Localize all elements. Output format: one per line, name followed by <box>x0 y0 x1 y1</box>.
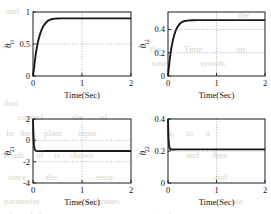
y-axis-label: θ^22 <box>136 146 150 155</box>
y-axis-label-subscript: 11 <box>9 39 15 45</box>
svg-text:θ^11: θ^11 <box>1 39 15 48</box>
parameter-estimation-figure: 01200.51Time(Sec)θ^1101200.20.4Time(Sec)… <box>0 0 271 214</box>
y-axis-label: θ^21 <box>1 146 15 155</box>
y-tick-label: 0 <box>161 71 165 81</box>
plot-panel-theta12: 01200.20.4Time(Sec)θ^12 <box>136 12 268 100</box>
svg-text:θ^12: θ^12 <box>136 39 150 48</box>
y-tick-label: 2 <box>26 114 30 124</box>
y-tick-label: -2 <box>23 157 30 167</box>
x-tick-label: 2 <box>263 185 267 195</box>
y-axis-label: θ^12 <box>136 39 150 48</box>
y-axis-label-subscript: 22 <box>144 146 150 152</box>
y-tick-label: 0 <box>26 71 30 81</box>
x-tick-label: 0 <box>166 185 170 195</box>
y-tick-label: 0.2 <box>154 146 165 156</box>
data-curve-theta22_estimate <box>168 119 265 150</box>
y-tick-label: 0.4 <box>154 114 165 124</box>
x-tick-label: 2 <box>129 185 133 195</box>
x-tick-label: 0 <box>166 78 170 88</box>
y-tick-label: 0.2 <box>154 48 165 58</box>
plot-panel-theta11: 01200.51Time(Sec)θ^11 <box>1 7 134 100</box>
y-tick-label: 0 <box>26 135 30 145</box>
y-tick-label: 1 <box>26 7 30 17</box>
x-axis-title: Time(Sec) <box>64 90 100 100</box>
x-tick-label: 1 <box>214 185 218 195</box>
x-tick-label: 0 <box>31 185 35 195</box>
x-tick-label: 1 <box>214 78 218 88</box>
y-axis-label-subscript: 12 <box>144 39 150 45</box>
plot-panel-theta22: 01200.20.4Time(Sec)θ^22 <box>136 114 268 207</box>
x-tick-label: 2 <box>129 78 133 88</box>
y-tick-label: 0.4 <box>154 24 165 34</box>
y-tick-label: 0.5 <box>19 39 30 49</box>
x-axis-title: Time(Sec) <box>199 90 235 100</box>
x-tick-label: 2 <box>263 78 267 88</box>
x-tick-label: 0 <box>31 78 35 88</box>
y-axis-label: θ^11 <box>1 39 15 48</box>
x-tick-label: 1 <box>80 78 84 88</box>
x-axis-title: Time(Sec) <box>199 197 235 207</box>
y-axis-label-subscript: 21 <box>9 146 15 152</box>
y-tick-label: -4 <box>23 178 31 188</box>
svg-text:θ^21: θ^21 <box>1 146 15 155</box>
svg-text:θ^22: θ^22 <box>136 146 150 155</box>
x-axis-title: Time(Sec) <box>64 197 100 207</box>
plot-panel-theta21: 012-4-202Time(Sec)θ^21 <box>1 114 134 207</box>
y-tick-label: 0 <box>161 178 165 188</box>
x-tick-label: 1 <box>80 185 84 195</box>
